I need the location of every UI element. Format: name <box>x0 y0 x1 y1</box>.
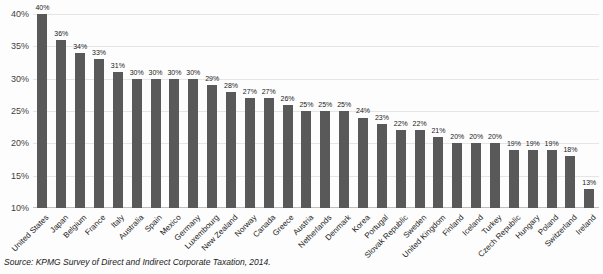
bar-value-label: 25% <box>299 101 313 109</box>
bar-value-label: 19% <box>526 140 540 148</box>
bar-value-label: 22% <box>394 120 408 128</box>
bar-group: 31% <box>108 14 127 208</box>
bar <box>339 111 349 208</box>
bar-value-label: 13% <box>582 179 596 187</box>
bar-value-label: 22% <box>413 120 427 128</box>
bar <box>433 137 443 208</box>
source-note: Source: KPMG Survey of Direct and Indire… <box>4 257 271 267</box>
y-tick-label: 25% <box>0 106 29 116</box>
bar <box>169 79 179 208</box>
bar <box>56 40 66 208</box>
bar-group: 22% <box>391 14 410 208</box>
bar <box>226 92 236 208</box>
bar-group: 25% <box>316 14 335 208</box>
bar-group: 18% <box>561 14 580 208</box>
bar-group: 30% <box>184 14 203 208</box>
bar-group: 40% <box>33 14 52 208</box>
bar-value-label: 31% <box>111 62 125 70</box>
bar <box>358 118 368 209</box>
bar-value-label: 33% <box>92 49 106 57</box>
bar-group: 30% <box>127 14 146 208</box>
bar-group: 26% <box>278 14 297 208</box>
bar <box>151 79 161 208</box>
bar-group: 21% <box>429 14 448 208</box>
bar <box>415 130 425 208</box>
bar-value-label: 30% <box>149 69 163 77</box>
bar-group: 30% <box>165 14 184 208</box>
bar-value-label: 40% <box>35 4 49 12</box>
bar <box>471 143 481 208</box>
bar <box>565 156 575 208</box>
bar <box>584 189 594 208</box>
x-tick-label: France <box>83 213 107 237</box>
bar-value-label: 24% <box>356 107 370 115</box>
y-tick-label: 30% <box>0 74 29 84</box>
bar <box>207 85 217 208</box>
bar <box>320 111 330 208</box>
y-tick-label: 20% <box>0 138 29 148</box>
bar-group: 20% <box>486 14 505 208</box>
bar-group: 25% <box>297 14 316 208</box>
x-axis: United StatesJapanBelgiumFranceItalyAust… <box>33 211 599 259</box>
bar-value-label: 27% <box>262 88 276 96</box>
bar-group: 19% <box>542 14 561 208</box>
plot-area: 40%36%34%33%31%30%30%30%30%29%28%27%27%2… <box>33 14 599 208</box>
x-tick-label: Ireland <box>574 213 598 237</box>
y-tick-label: 10% <box>0 203 29 213</box>
bar-group: 27% <box>240 14 259 208</box>
bar-value-label: 25% <box>337 101 351 109</box>
bar-group: 24% <box>354 14 373 208</box>
bar <box>452 143 462 208</box>
bar-value-label: 28% <box>224 82 238 90</box>
bar-value-label: 30% <box>167 69 181 77</box>
bars-container: 40%36%34%33%31%30%30%30%30%29%28%27%27%2… <box>33 14 599 208</box>
bar-group: 22% <box>410 14 429 208</box>
bar-value-label: 20% <box>488 133 502 141</box>
bar-group: 19% <box>523 14 542 208</box>
bar-value-label: 20% <box>450 133 464 141</box>
bar <box>377 124 387 208</box>
bar <box>245 98 255 208</box>
bar-group: 34% <box>71 14 90 208</box>
bar-group: 30% <box>146 14 165 208</box>
bar-group: 20% <box>467 14 486 208</box>
bar <box>396 130 406 208</box>
bar-value-label: 30% <box>130 69 144 77</box>
bar-value-label: 29% <box>205 75 219 83</box>
bar-group: 20% <box>448 14 467 208</box>
bar-chart: 40%35%30%25%20%15%10% 40%36%34%33%31%30%… <box>0 0 603 274</box>
bar-group: 36% <box>52 14 71 208</box>
bar <box>113 72 123 208</box>
bar <box>188 79 198 208</box>
bar <box>283 105 293 209</box>
bar-value-label: 18% <box>563 146 577 154</box>
bar-value-label: 19% <box>545 140 559 148</box>
bar <box>528 150 538 208</box>
bar-group: 33% <box>90 14 109 208</box>
bar-value-label: 27% <box>243 88 257 96</box>
y-tick-label: 15% <box>0 171 29 181</box>
y-tick-label: 35% <box>0 41 29 51</box>
bar-value-label: 36% <box>54 30 68 38</box>
bar-group: 19% <box>504 14 523 208</box>
bar-value-label: 23% <box>375 114 389 122</box>
y-tick-label: 40% <box>0 9 29 19</box>
bar-value-label: 34% <box>73 43 87 51</box>
bar-value-label: 21% <box>431 127 445 135</box>
bar-group: 28% <box>222 14 241 208</box>
bar <box>264 98 274 208</box>
bar-group: 29% <box>203 14 222 208</box>
bar-value-label: 19% <box>507 140 521 148</box>
bar-value-label: 25% <box>318 101 332 109</box>
bar-group: 27% <box>259 14 278 208</box>
bar-group: 13% <box>580 14 599 208</box>
bar <box>132 79 142 208</box>
bar <box>37 14 47 208</box>
bar-value-label: 26% <box>281 95 295 103</box>
bar <box>490 143 500 208</box>
bar <box>301 111 311 208</box>
bar-group: 23% <box>372 14 391 208</box>
bar-value-label: 30% <box>186 69 200 77</box>
bar-group: 25% <box>335 14 354 208</box>
bar <box>94 59 104 208</box>
